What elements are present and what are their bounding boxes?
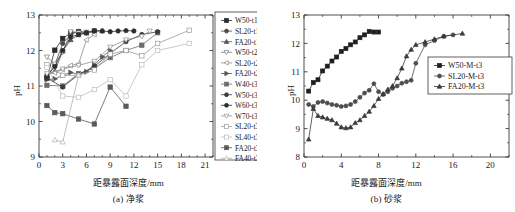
series-fa20-t3 bbox=[45, 85, 128, 126]
marker-square bbox=[124, 104, 128, 108]
marker-triangle-up bbox=[52, 137, 57, 142]
y-tick-label: 12 bbox=[26, 46, 35, 56]
series-line bbox=[47, 43, 189, 97]
marker-circle bbox=[225, 29, 229, 33]
legend-label: SL20-M-t3 bbox=[448, 72, 484, 81]
x-tick-label: 8 bbox=[376, 160, 381, 170]
legend-label: W50-t1 bbox=[235, 16, 257, 25]
marker-square bbox=[225, 146, 229, 150]
legend-label: FA20-t1 bbox=[235, 38, 257, 47]
axis-x-label-a: 距暴露面深度/mm bbox=[0, 176, 257, 189]
marker-square bbox=[53, 110, 57, 114]
marker-circle bbox=[124, 28, 128, 32]
marker-square bbox=[363, 33, 367, 37]
marker-circle bbox=[395, 84, 399, 88]
legend-label: SL20-t2 bbox=[235, 59, 257, 68]
marker-circle bbox=[61, 85, 65, 89]
series-line bbox=[47, 87, 126, 124]
marker-circle bbox=[225, 103, 229, 107]
marker-triangle-up bbox=[353, 121, 358, 125]
caption-b: (b) 砂浆 bbox=[258, 192, 515, 205]
marker-circle bbox=[405, 80, 409, 84]
marker-triangle-up bbox=[386, 87, 391, 91]
marker-square bbox=[349, 43, 353, 47]
marker-triangle-up bbox=[334, 121, 339, 125]
marker-circle bbox=[372, 82, 376, 86]
x-tick-label: 18 bbox=[177, 160, 187, 170]
legend-label: SL20-t3 bbox=[235, 122, 257, 131]
marker-triangle-up bbox=[390, 84, 395, 88]
marker-circle bbox=[116, 29, 120, 33]
marker-triangle-up bbox=[400, 66, 405, 70]
axis-y-label-b: pH bbox=[286, 85, 296, 96]
marker-circle bbox=[307, 102, 311, 106]
legend-label: W50-t3 bbox=[235, 91, 257, 100]
x-tick-label: 6 bbox=[84, 160, 89, 170]
marker-square bbox=[108, 85, 112, 89]
marker-circle bbox=[353, 100, 357, 104]
marker-square bbox=[61, 73, 65, 77]
series-w60-t3 bbox=[45, 28, 136, 78]
marker-circle bbox=[155, 29, 159, 33]
data-series-group bbox=[44, 28, 191, 144]
marker-square bbox=[187, 28, 191, 32]
legend-label: FA20-t2 bbox=[235, 69, 257, 78]
y-tick-label: 10 bbox=[26, 117, 36, 127]
marker-circle bbox=[100, 29, 104, 33]
legend-label: W50-t2 bbox=[235, 48, 257, 57]
x-tick-label: 20 bbox=[486, 160, 496, 170]
y-tick-label: 12 bbox=[291, 39, 300, 49]
marker-square bbox=[339, 49, 343, 53]
legend-label: W50-M-t3 bbox=[448, 61, 482, 70]
figure-container: 036912151821910111213W50-t1SL20-t1FA20-t… bbox=[0, 0, 515, 212]
marker-square bbox=[311, 81, 315, 85]
marker-square bbox=[61, 94, 65, 98]
marker-square bbox=[45, 65, 49, 69]
marker-circle bbox=[400, 81, 404, 85]
x-tick-label: 21 bbox=[201, 160, 210, 170]
marker-triangle-up bbox=[306, 137, 311, 141]
marker-circle bbox=[363, 91, 367, 95]
marker-square bbox=[108, 77, 112, 81]
marker-square bbox=[344, 47, 348, 51]
legend-label: W70-t3 bbox=[235, 112, 257, 121]
y-tick-label: 8 bbox=[296, 152, 301, 162]
marker-square bbox=[92, 122, 96, 126]
marker-square bbox=[124, 94, 128, 98]
x-tick-label: 0 bbox=[37, 160, 42, 170]
marker-circle bbox=[414, 61, 418, 65]
marker-square bbox=[155, 41, 159, 45]
marker-square bbox=[225, 19, 229, 23]
x-tick-label: 12 bbox=[411, 160, 420, 170]
marker-circle bbox=[53, 64, 57, 68]
series-line bbox=[309, 31, 379, 91]
caption-a: (a) 净浆 bbox=[0, 192, 257, 205]
marker-circle bbox=[438, 74, 442, 78]
legend-label: W60-t3 bbox=[235, 101, 257, 110]
marker-circle bbox=[325, 101, 329, 105]
marker-circle bbox=[377, 90, 381, 94]
x-tick-label: 12 bbox=[129, 160, 138, 170]
marker-circle bbox=[316, 100, 320, 104]
legend-label: FA20-t3 bbox=[235, 144, 257, 153]
marker-square bbox=[377, 30, 381, 34]
marker-right-triangle bbox=[69, 70, 74, 75]
marker-square bbox=[124, 48, 128, 52]
marker-square bbox=[358, 36, 362, 40]
panel-a-pure-paste: 036912151821910111213W50-t1SL20-t1FA20-t… bbox=[0, 0, 257, 212]
legend-label: FA20-M-t3 bbox=[448, 82, 484, 91]
marker-circle bbox=[225, 93, 229, 97]
marker-square bbox=[140, 43, 144, 47]
panel-b-mortar: 0481216208910111213W50-M-t3SL20-M-t3FA20… bbox=[258, 0, 515, 212]
marker-circle bbox=[349, 102, 353, 106]
marker-circle bbox=[367, 88, 371, 92]
legend-label: SL40-t3 bbox=[235, 133, 257, 142]
marker-circle bbox=[61, 41, 65, 45]
marker-square bbox=[307, 89, 311, 93]
legend-label: SL20-t1 bbox=[235, 27, 257, 36]
series-line bbox=[55, 75, 79, 142]
marker-circle bbox=[358, 95, 362, 99]
y-tick-label: 11 bbox=[26, 81, 35, 91]
marker-square bbox=[61, 111, 65, 115]
y-tick-label: 9 bbox=[31, 152, 36, 162]
